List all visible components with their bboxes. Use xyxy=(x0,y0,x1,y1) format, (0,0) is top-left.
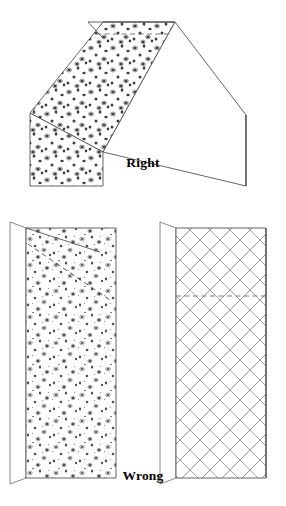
wrong-left-side-strip xyxy=(10,222,26,484)
wrong-right-side-strip xyxy=(160,222,176,484)
caption-right: Right xyxy=(0,155,286,171)
roof-diagram-svg xyxy=(0,0,286,506)
wrong-example-group xyxy=(10,222,266,484)
wrong-right-panel xyxy=(160,222,266,484)
caption-wrong: Wrong xyxy=(0,468,286,484)
wrong-left-panel xyxy=(10,222,116,484)
figure-root: Right Wrong xyxy=(0,0,286,506)
